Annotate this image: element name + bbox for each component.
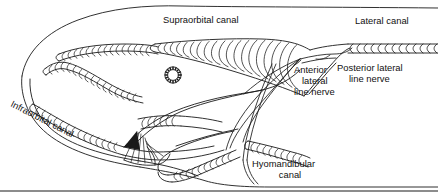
nasal-canal-loop: [43, 62, 143, 103]
infraorbital-canal: [30, 104, 124, 155]
eye: [165, 67, 181, 83]
posterior-nerve-line-1: Posterior lateral: [337, 62, 427, 73]
lateral-canal: [348, 44, 438, 53]
label-hyomandibular-canal: Hyomandibular canal: [252, 158, 332, 180]
anatomy-line-drawing: [0, 0, 438, 193]
anterior-nerve-line-3: line nerve: [294, 86, 354, 97]
label-posterior-lateral-line-nerve: Posterior lateral line nerve: [337, 62, 427, 84]
supraorbital-canal-anterior: [56, 44, 158, 61]
lateral-line-canal-figure: Supraorbital canal Lateral canal Infraor…: [0, 0, 438, 193]
label-supraorbital-canal: Supraorbital canal: [163, 14, 239, 25]
label-lateral-canal: Lateral canal: [355, 15, 409, 26]
hyomandibular-line-1: Hyomandibular: [252, 158, 332, 169]
posterior-lateral-line-nerve: [300, 48, 352, 63]
posterior-nerve-line-2: line nerve: [337, 73, 427, 84]
head-outline: [22, 6, 438, 187]
hyomandibular-line-2: canal: [252, 169, 328, 180]
